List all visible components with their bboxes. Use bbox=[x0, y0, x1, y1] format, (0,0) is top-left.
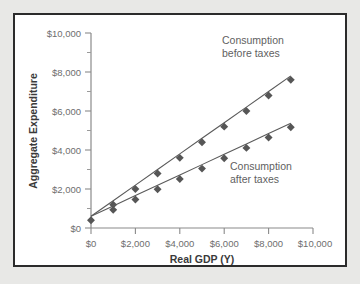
y-tick-label-2000: $2,000 bbox=[52, 184, 81, 195]
y-axis-title: Aggregate Expenditure bbox=[27, 73, 39, 189]
chart-frame: $10,000 $8,000 $6,000 $4,000 $2,000 $0 $… bbox=[13, 13, 347, 267]
x-tick-label-6000: $6,000 bbox=[210, 238, 239, 249]
y-tick-label-6000: $6,000 bbox=[52, 106, 81, 117]
y-tick-label-0: $0 bbox=[70, 223, 81, 234]
series-before-taxes-markers bbox=[87, 76, 295, 224]
y-tick-label-8000: $8,000 bbox=[52, 67, 81, 78]
annotation-before-taxes-line2: before taxes bbox=[222, 47, 280, 59]
x-tick-label-10000: $10,000 bbox=[298, 238, 332, 249]
x-tick-label-2000: $2,000 bbox=[121, 238, 150, 249]
annotation-after-taxes: Consumption after taxes bbox=[230, 160, 292, 185]
x-tick-label-0: $0 bbox=[86, 238, 97, 249]
annotation-after-taxes-line2: after taxes bbox=[230, 173, 279, 185]
chart-plot-area: $10,000 $8,000 $6,000 $4,000 $2,000 $0 $… bbox=[15, 15, 349, 269]
series-before-taxes bbox=[87, 76, 295, 224]
x-tick-label-8000: $8,000 bbox=[254, 238, 283, 249]
y-tick-label-4000: $4,000 bbox=[52, 145, 81, 156]
annotation-before-taxes: Consumption before taxes bbox=[222, 34, 284, 59]
y-tick-label-10000: $10,000 bbox=[47, 28, 81, 39]
annotation-after-taxes-line1: Consumption bbox=[230, 160, 292, 172]
series-before-taxes-line bbox=[91, 76, 291, 216]
annotation-before-taxes-line1: Consumption bbox=[222, 34, 284, 46]
x-tick-label-4000: $4,000 bbox=[165, 238, 194, 249]
x-axis-major-ticks bbox=[91, 228, 313, 234]
x-axis-title: Real GDP (Y) bbox=[170, 253, 235, 265]
